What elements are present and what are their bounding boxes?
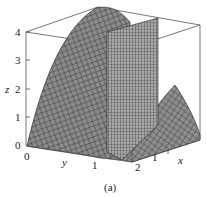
z-tick-4: 4 (15, 26, 21, 38)
x-tick-1: 1 (152, 151, 158, 163)
z-axis (26, 32, 30, 117)
y-axis-label: y (61, 156, 67, 168)
z-tick-0: 0 (15, 139, 21, 151)
z-tick-2: 2 (15, 83, 21, 95)
x-tick-2: 2 (135, 161, 141, 173)
z-tick-1: 1 (15, 111, 21, 123)
surface-plot: 4 3 2 1 0 z 0 1 y 1 2 x (a) (0, 0, 206, 197)
y-tick-0: 0 (24, 150, 30, 162)
z-tick-3: 3 (15, 54, 21, 66)
figure-caption: (a) (104, 181, 117, 194)
x-axis-label: x (177, 154, 183, 166)
z-axis-label: z (4, 83, 10, 95)
y-tick-1: 1 (92, 159, 98, 171)
